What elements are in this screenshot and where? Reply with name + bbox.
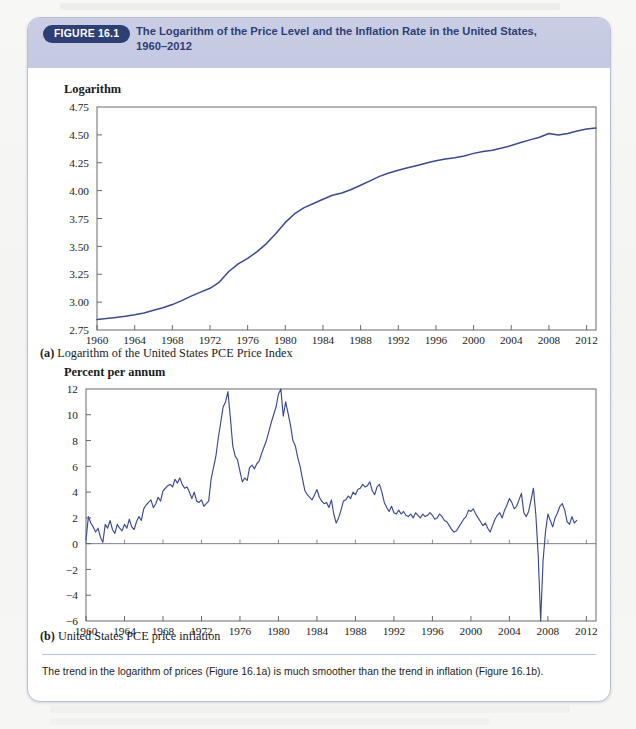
svg-text:12: 12: [67, 383, 79, 395]
svg-text:2008: 2008: [538, 334, 561, 346]
panel-a-caption: (a) Logarithm of the United States PCE P…: [40, 346, 293, 361]
svg-text:2012: 2012: [575, 625, 598, 637]
svg-text:2000: 2000: [460, 625, 483, 637]
figure-number-badge: FIGURE 16.1: [43, 25, 130, 43]
panel-a-plot: 2.753.003.253.503.754.004.254.504.751960…: [28, 68, 611, 373]
panel-b-plot: −6−4−20246810121960196419681972197619801…: [28, 363, 611, 653]
figure-note: The trend in the logarithm of prices (Fi…: [42, 654, 596, 679]
svg-text:4.25: 4.25: [69, 157, 89, 169]
svg-text:2012: 2012: [575, 334, 598, 346]
svg-text:0: 0: [72, 538, 78, 550]
svg-text:4.50: 4.50: [69, 129, 89, 141]
svg-text:1992: 1992: [387, 334, 410, 346]
panel-a-caption-text: Logarithm of the United States PCE Price…: [57, 346, 292, 360]
svg-text:2004: 2004: [500, 334, 523, 346]
figure-header: FIGURE 16.1 The Logarithm of the Price L…: [28, 18, 610, 68]
svg-text:1996: 1996: [421, 625, 444, 637]
figure-title-line1: The Logarithm of the Price Level and the…: [136, 25, 537, 37]
svg-text:3.50: 3.50: [69, 241, 89, 253]
svg-text:1988: 1988: [344, 625, 367, 637]
svg-text:1964: 1964: [123, 334, 146, 346]
panel-b-caption: (b) United States PCE price inflation: [40, 629, 220, 644]
svg-text:4.00: 4.00: [69, 185, 89, 197]
svg-text:1960: 1960: [86, 334, 109, 346]
svg-text:2: 2: [72, 512, 78, 524]
svg-text:4.75: 4.75: [69, 101, 89, 113]
svg-text:1988: 1988: [349, 334, 372, 346]
svg-text:4: 4: [72, 486, 78, 498]
panel-a-caption-label: (a): [40, 346, 54, 360]
figure-title-line2: 1960–2012: [136, 39, 596, 54]
svg-text:−4: −4: [66, 589, 78, 601]
svg-text:1980: 1980: [267, 625, 290, 637]
svg-text:3.25: 3.25: [69, 268, 89, 280]
svg-text:2000: 2000: [462, 334, 485, 346]
svg-text:1972: 1972: [199, 334, 222, 346]
svg-text:2008: 2008: [537, 625, 560, 637]
panel-b-caption-text: United States PCE price inflation: [58, 629, 220, 643]
svg-text:3.75: 3.75: [69, 213, 89, 225]
figure-title: The Logarithm of the Price Level and the…: [136, 24, 596, 53]
svg-text:1976: 1976: [236, 334, 259, 346]
svg-text:8: 8: [72, 435, 78, 447]
svg-text:1984: 1984: [312, 334, 335, 346]
svg-text:3.00: 3.00: [69, 296, 89, 308]
svg-text:6: 6: [72, 461, 78, 473]
chart-panel-a: Logarithm 2.753.003.253.503.754.004.254.…: [28, 68, 610, 373]
svg-text:1980: 1980: [274, 334, 297, 346]
svg-text:10: 10: [67, 409, 79, 421]
svg-text:1996: 1996: [425, 334, 448, 346]
svg-text:1992: 1992: [383, 625, 406, 637]
svg-text:1984: 1984: [306, 625, 329, 637]
figure-card: FIGURE 16.1 The Logarithm of the Price L…: [27, 17, 611, 702]
svg-text:1976: 1976: [229, 625, 252, 637]
svg-text:2004: 2004: [498, 625, 521, 637]
svg-text:1968: 1968: [161, 334, 184, 346]
svg-text:−2: −2: [66, 564, 78, 576]
chart-panel-b: Percent per annum −6−4−20246810121960196…: [28, 363, 610, 653]
panel-b-caption-label: (b): [40, 629, 55, 643]
